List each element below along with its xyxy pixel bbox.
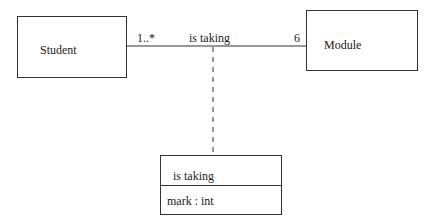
association-class-name: is taking [173,169,214,183]
attribute-mark: mark : int [167,194,214,208]
association-class-box[interactable]: is taking mark : int [160,155,282,215]
class-box-student[interactable]: Student [17,16,127,78]
multiplicity-module-end: 6 [294,31,300,45]
association-class-name-compartment: is taking [161,156,281,186]
association-name: is taking [189,31,230,45]
class-name-module: Module [324,38,361,52]
class-name-student: Student [40,43,77,57]
multiplicity-student-end: 1..* [137,31,155,45]
association-class-attributes-compartment: mark : int [161,186,281,214]
class-box-module[interactable]: Module [306,10,418,71]
uml-diagram-canvas: Student Module 1..* is taking 6 is takin… [0,0,433,223]
